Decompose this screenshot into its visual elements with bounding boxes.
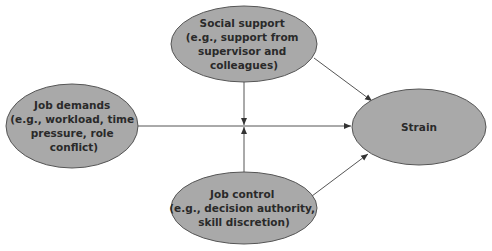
social-support-line-3: supervisor and	[198, 45, 286, 57]
job-control-line-2: (e.g., decision authority,	[169, 202, 315, 214]
node-strain: Strain	[352, 89, 486, 165]
edge-job-control-to-strain	[312, 154, 368, 196]
job-demands-line-1: Job demands	[33, 99, 110, 111]
edge-social-support-to-strain	[314, 58, 372, 101]
social-support-line-2: (e.g., support from	[186, 31, 299, 43]
diagram-canvas: Social support (e.g., support from super…	[0, 0, 492, 251]
job-demands-ellipse	[6, 84, 138, 168]
social-support-line-4: colleagues)	[210, 59, 278, 71]
job-control-line-3: skill discretion)	[198, 216, 290, 228]
job-demands-line-2: (e.g., workload, time	[10, 113, 134, 125]
strain-label: Strain	[401, 121, 437, 133]
node-job-demands: Job demands (e.g., workload, time pressu…	[6, 84, 138, 168]
strain-line-1: Strain	[401, 121, 437, 133]
job-control-line-1: Job control	[209, 188, 274, 200]
node-social-support: Social support (e.g., support from super…	[171, 6, 317, 82]
job-demands-line-3: pressure, role	[31, 127, 114, 139]
job-demands-line-4: conflict)	[50, 141, 98, 153]
social-support-line-1: Social support	[200, 17, 285, 29]
node-job-control: Job control (e.g., decision authority, s…	[169, 172, 318, 244]
